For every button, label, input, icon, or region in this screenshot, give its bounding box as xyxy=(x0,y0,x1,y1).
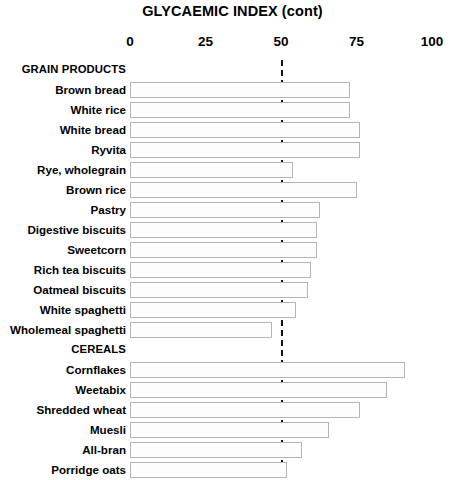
bar-row: Pastry xyxy=(0,200,455,220)
bar-wholemeal-spaghetti xyxy=(130,322,272,338)
bar-muesli xyxy=(130,422,329,438)
bar-row: Shredded wheat xyxy=(0,400,455,420)
bar-digestive-biscuits xyxy=(130,222,317,238)
bar-label-white-rice: White rice xyxy=(0,100,126,120)
group-header-row: GRAIN PRODUCTS xyxy=(0,60,455,80)
bar-row: Porridge oats xyxy=(0,460,455,480)
bar-row: Rye, wholegrain xyxy=(0,160,455,180)
bar-weetabix xyxy=(130,382,387,398)
bar-label-white-spaghetti: White spaghetti xyxy=(0,300,126,320)
bar-row: White spaghetti xyxy=(0,300,455,320)
bar-ryvita xyxy=(130,142,360,158)
bar-white-bread xyxy=(130,122,360,138)
bar-label-rich-tea-biscuits: Rich tea biscuits xyxy=(0,260,126,280)
bar-shredded-wheat xyxy=(130,402,360,418)
bar-label-rye-wholegrain: Rye, wholegrain xyxy=(0,160,126,180)
x-axis-tick-0: 0 xyxy=(126,34,134,49)
bar-label-porridge-oats: Porridge oats xyxy=(0,460,126,480)
bar-row: White rice xyxy=(0,100,455,120)
bar-label-ryvita: Ryvita xyxy=(0,140,126,160)
bar-brown-rice xyxy=(130,182,357,198)
x-axis-tick-100: 100 xyxy=(421,34,444,49)
x-axis-tick-labels: 0255075100 xyxy=(0,34,455,52)
bar-cornflakes xyxy=(130,362,405,378)
bar-row: Cornflakes xyxy=(0,360,455,380)
bar-sweetcorn xyxy=(130,242,317,258)
group-header-row: CEREALS xyxy=(0,340,455,360)
bar-label-oatmeal-biscuits: Oatmeal biscuits xyxy=(0,280,126,300)
bar-label-all-bran: All-bran xyxy=(0,440,126,460)
x-axis-tick-50: 50 xyxy=(273,34,288,49)
bar-label-white-bread: White bread xyxy=(0,120,126,140)
bar-row: All-bran xyxy=(0,440,455,460)
bar-oatmeal-biscuits xyxy=(130,282,308,298)
bar-label-shredded-wheat: Shredded wheat xyxy=(0,400,126,420)
bar-row: Muesli xyxy=(0,420,455,440)
bar-label-weetabix: Weetabix xyxy=(0,380,126,400)
plot-area: GRAIN PRODUCTSBrown breadWhite riceWhite… xyxy=(0,60,455,475)
bar-row: Brown rice xyxy=(0,180,455,200)
bar-row: Ryvita xyxy=(0,140,455,160)
bar-row: Brown bread xyxy=(0,80,455,100)
bar-rye-wholegrain xyxy=(130,162,293,178)
bar-rich-tea-biscuits xyxy=(130,262,311,278)
bar-label-wholemeal-spaghetti: Wholemeal spaghetti xyxy=(0,320,126,340)
bar-white-rice xyxy=(130,102,350,118)
bar-row: Digestive biscuits xyxy=(0,220,455,240)
bar-row: White bread xyxy=(0,120,455,140)
bar-pastry xyxy=(130,202,320,218)
bar-row: Oatmeal biscuits xyxy=(0,280,455,300)
bar-porridge-oats xyxy=(130,462,287,478)
bar-label-digestive-biscuits: Digestive biscuits xyxy=(0,220,126,240)
bar-label-muesli: Muesli xyxy=(0,420,126,440)
bar-brown-bread xyxy=(130,82,350,98)
group-label-cereals: CEREALS xyxy=(0,340,126,360)
bar-label-pastry: Pastry xyxy=(0,200,126,220)
x-axis-tick-25: 25 xyxy=(198,34,213,49)
chart-title: GLYCAEMIC INDEX (cont) xyxy=(0,3,455,19)
bar-row: Sweetcorn xyxy=(0,240,455,260)
bar-row: Rich tea biscuits xyxy=(0,260,455,280)
bar-all-bran xyxy=(130,442,302,458)
bar-label-brown-rice: Brown rice xyxy=(0,180,126,200)
bar-label-cornflakes: Cornflakes xyxy=(0,360,126,380)
bar-white-spaghetti xyxy=(130,302,296,318)
bar-row: Weetabix xyxy=(0,380,455,400)
bar-label-sweetcorn: Sweetcorn xyxy=(0,240,126,260)
x-axis-tick-75: 75 xyxy=(349,34,364,49)
bar-row: Wholemeal spaghetti xyxy=(0,320,455,340)
bar-label-brown-bread: Brown bread xyxy=(0,80,126,100)
group-label-grain-products: GRAIN PRODUCTS xyxy=(0,60,126,80)
